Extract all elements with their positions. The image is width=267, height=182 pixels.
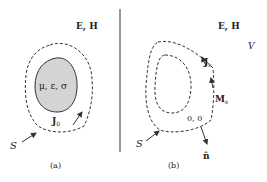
surface-label-a: S xyxy=(10,140,17,151)
material-label: μ, ε, σ xyxy=(39,81,67,91)
surface-pointer-a xyxy=(22,133,36,142)
source-arrow xyxy=(73,112,82,125)
field-label-b: E, H xyxy=(218,21,240,32)
source-label: J0 xyxy=(51,116,60,127)
magnetic-current-arrow xyxy=(211,78,213,88)
volume-label: V xyxy=(248,41,256,51)
field-label-a: E, H xyxy=(76,21,98,32)
normal-arrow xyxy=(201,127,207,144)
caption-b: (b) xyxy=(168,161,179,170)
caption-a: (a) xyxy=(50,161,61,170)
panel-b: E, H V Js Ms 0, 0 n̂ S (b) xyxy=(136,21,256,170)
normal-label: n̂ xyxy=(203,151,210,161)
surface-s-dashed-b xyxy=(146,41,214,131)
magnetic-current-label: Ms xyxy=(215,94,228,105)
equivalence-principle-diagram: μ, ε, σ E, H J0 S (a) E, H V Js Ms 0, 0 … xyxy=(0,0,267,182)
surface-label-b: S xyxy=(136,138,143,149)
inner-region-dashed xyxy=(155,55,191,113)
zero-fields-label: 0, 0 xyxy=(187,114,202,123)
surface-pointer-b xyxy=(146,131,159,141)
electric-current-label: Js xyxy=(203,57,211,68)
panel-a: μ, ε, σ E, H J0 S (a) xyxy=(10,21,98,170)
